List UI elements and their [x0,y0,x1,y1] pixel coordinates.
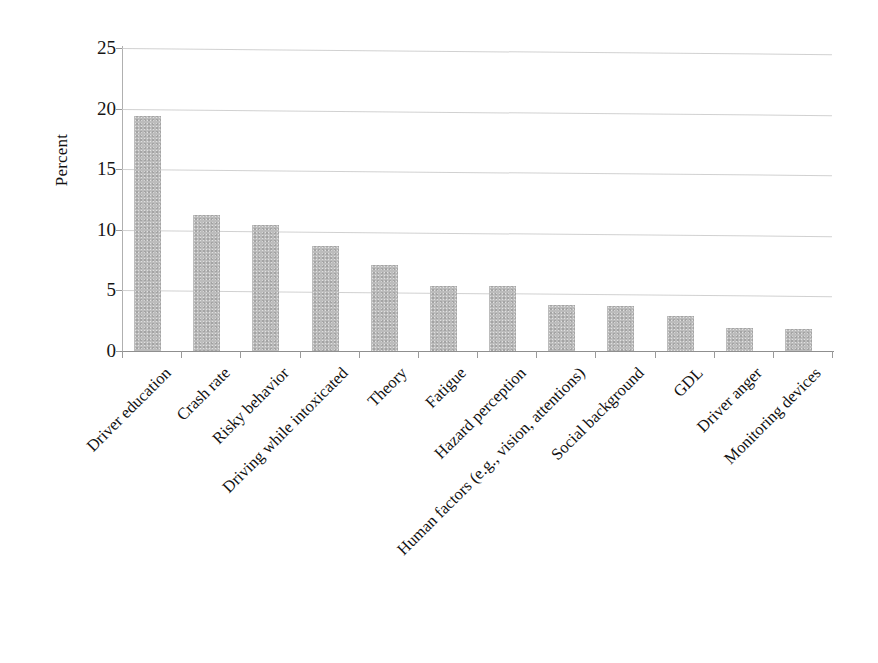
x-axis-tick-mark [655,351,656,358]
x-axis-tick-mark [122,351,123,358]
bar [785,329,812,351]
plot-area [122,48,832,351]
x-axis-tick-mark [832,351,833,358]
y-axis-tick-label: 10 [72,220,116,239]
x-axis-tick-mark [714,351,715,358]
bar [312,246,339,351]
bar [252,225,279,351]
bar [667,316,694,351]
y-axis-tick-label: 5 [72,280,116,299]
gridline [122,109,832,116]
x-axis-tick-mark [595,351,596,358]
bar [726,328,753,351]
bar [548,305,575,351]
gridline [122,169,832,176]
bar [371,265,398,351]
x-axis-tick-mark [181,351,182,358]
bar [489,286,516,351]
x-axis-tick-mark [477,351,478,358]
gridline [122,48,832,55]
x-axis-tick-mark [418,351,419,358]
gridline [122,230,832,237]
x-axis-tick-mark [773,351,774,358]
y-axis-tick-label: 20 [72,99,116,118]
x-axis-tick-mark [240,351,241,358]
bar-chart-figure: Percent 0510152025 Driver educationCrash… [0,0,878,663]
bar [193,215,220,351]
bar [134,116,161,351]
y-axis-tick-label: 15 [72,159,116,178]
x-axis-tick-label-text: Fatigue [422,364,469,411]
gridline [122,290,832,297]
x-axis-tick-mark [359,351,360,358]
x-axis-tick-mark [536,351,537,358]
x-axis-tick-label-text: Crash rate [173,364,233,424]
bar [430,286,457,351]
y-axis-tick-label: 0 [72,341,116,360]
x-axis-tick-label-text: GDL [670,364,706,400]
x-axis-tick-mark [300,351,301,358]
x-axis-tick-label-text: Theory [365,364,411,410]
bar [607,306,634,351]
y-axis-tick-label: 25 [72,38,116,57]
